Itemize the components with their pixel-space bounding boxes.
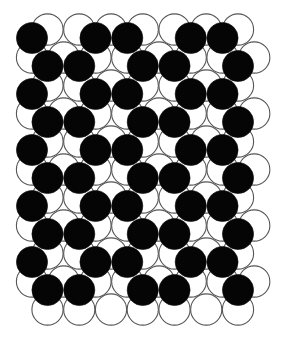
black-circle bbox=[222, 106, 253, 137]
black-circle bbox=[175, 134, 206, 165]
black-circle bbox=[32, 162, 63, 193]
black-circle bbox=[159, 274, 190, 305]
black-circle bbox=[32, 106, 63, 137]
white-circle bbox=[191, 294, 222, 325]
black-circle bbox=[175, 22, 206, 53]
black-circle bbox=[64, 50, 95, 81]
black-circle bbox=[32, 50, 63, 81]
black-circle bbox=[112, 22, 143, 53]
black-circle bbox=[175, 190, 206, 221]
black-circle bbox=[127, 274, 158, 305]
black-circle bbox=[112, 134, 143, 165]
black-circle bbox=[127, 162, 158, 193]
black-circle bbox=[127, 50, 158, 81]
black-circle bbox=[64, 162, 95, 193]
black-circle bbox=[159, 162, 190, 193]
black-circle bbox=[222, 274, 253, 305]
black-circle bbox=[80, 134, 111, 165]
circle-packing-figure bbox=[0, 0, 286, 344]
black-circle bbox=[64, 274, 95, 305]
black-circle bbox=[64, 106, 95, 137]
black-circle bbox=[80, 78, 111, 109]
black-circle bbox=[222, 218, 253, 249]
black-circle bbox=[207, 22, 238, 53]
white-circle bbox=[95, 294, 126, 325]
black-circle bbox=[159, 50, 190, 81]
black-circle bbox=[112, 78, 143, 109]
black-circle bbox=[80, 22, 111, 53]
black-circle bbox=[80, 190, 111, 221]
black-circle bbox=[175, 78, 206, 109]
black-circle bbox=[222, 162, 253, 193]
black-circle bbox=[112, 190, 143, 221]
black-circle bbox=[16, 22, 47, 53]
black-circle bbox=[159, 218, 190, 249]
black-circle bbox=[16, 190, 47, 221]
black-circle bbox=[32, 218, 63, 249]
black-circle bbox=[207, 134, 238, 165]
black-circle bbox=[16, 134, 47, 165]
black-circle bbox=[207, 246, 238, 277]
black-circle bbox=[159, 106, 190, 137]
black-circle bbox=[64, 218, 95, 249]
black-circle bbox=[32, 274, 63, 305]
black-circle bbox=[127, 106, 158, 137]
black-circle bbox=[175, 246, 206, 277]
black-circle bbox=[112, 246, 143, 277]
black-circle bbox=[207, 190, 238, 221]
black-circle bbox=[127, 218, 158, 249]
black-circle bbox=[16, 246, 47, 277]
black-circle bbox=[207, 78, 238, 109]
black-circle bbox=[16, 78, 47, 109]
black-circle bbox=[80, 246, 111, 277]
black-circle bbox=[222, 50, 253, 81]
